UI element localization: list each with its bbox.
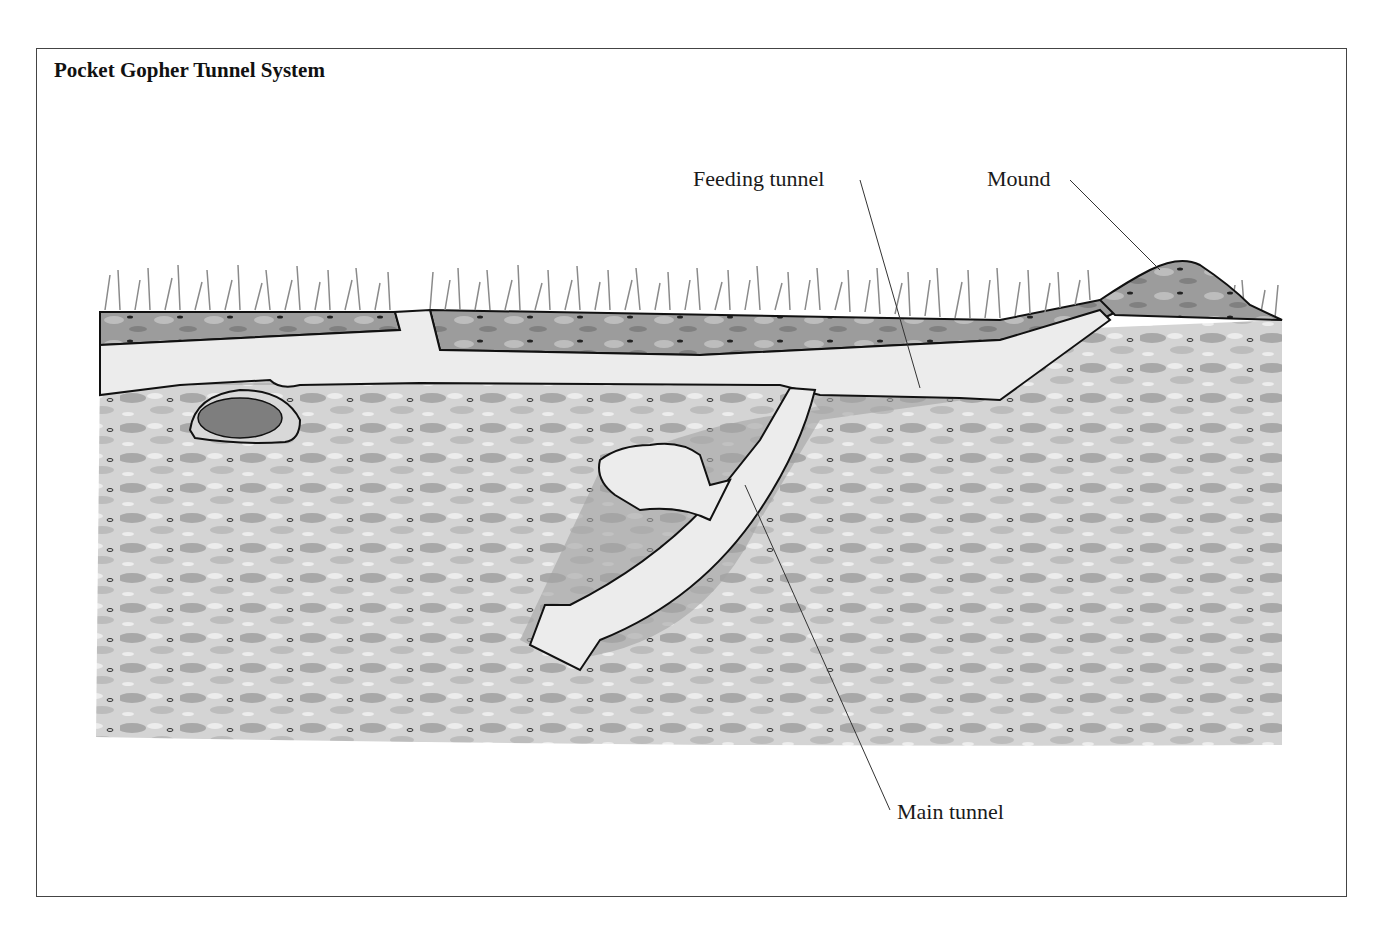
- mound-leader: [1070, 180, 1160, 270]
- label-mound: Mound: [987, 166, 1051, 192]
- mound: [1100, 261, 1282, 320]
- label-feeding-tunnel: Feeding tunnel: [693, 166, 824, 192]
- tunnel-illustration: [0, 0, 1390, 933]
- label-main-tunnel: Main tunnel: [897, 799, 1004, 825]
- gopher: [198, 398, 282, 438]
